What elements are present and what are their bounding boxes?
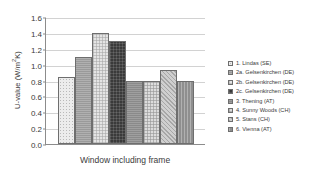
- bar: [143, 81, 160, 145]
- x-axis-label: Window including frame: [45, 155, 205, 165]
- bar: [160, 70, 177, 144]
- legend-item-label: 1. Lindas (SE): [236, 60, 271, 67]
- y-axis-tick-label: 1.6: [31, 14, 42, 23]
- legend-swatch-icon: [228, 117, 233, 122]
- legend-item-label: 2c. Gelsenkirchen (DE): [236, 88, 294, 95]
- legend-item[interactable]: 2b. Gelsenkirchen (DE): [228, 79, 316, 86]
- bar-chart: U-value (W/m2K) 1.61.41.21.00.80.60.40.2…: [0, 0, 318, 180]
- y-axis-tick-label: 1.4: [31, 29, 42, 38]
- y-axis-tick-label: 0.8: [31, 77, 42, 86]
- y-axis-tick: [43, 145, 46, 146]
- plot-area: 1.61.41.21.00.80.60.40.20.0: [45, 18, 205, 145]
- y-axis-title-superscript: 2: [11, 59, 17, 62]
- legend-swatch-icon: [228, 70, 233, 75]
- legend-item[interactable]: 3. Thening (AT): [228, 98, 316, 105]
- bar: [75, 57, 92, 144]
- bar: [177, 81, 194, 144]
- legend-item[interactable]: 5. Stans (CH): [228, 116, 316, 123]
- legend-item[interactable]: 1. Lindas (SE): [228, 60, 316, 67]
- legend-item[interactable]: 2c. Gelsenkirchen (DE): [228, 88, 316, 95]
- legend-swatch-icon: [228, 61, 233, 66]
- y-axis-tick-label: 0.4: [31, 109, 42, 118]
- bar: [109, 41, 126, 144]
- bar: [58, 77, 75, 144]
- legend-swatch-icon: [228, 80, 233, 85]
- legend-item-label: 5. Stans (CH): [236, 116, 270, 123]
- legend-item-label: 2a. Gelsenkirchen (DE): [236, 69, 294, 76]
- legend-swatch-icon: [228, 99, 233, 104]
- legend-item[interactable]: 2a. Gelsenkirchen (DE): [228, 69, 316, 76]
- bar-group: [46, 18, 205, 144]
- y-axis-tick-label: 0.0: [31, 141, 42, 150]
- y-axis-tick-label: 0.2: [31, 125, 42, 134]
- legend-item[interactable]: 6. Vienna (AT): [228, 126, 316, 133]
- y-axis-title: U-value (W/m2K): [8, 30, 20, 130]
- legend-item-label: 4. Sunny Woods (CH): [236, 107, 290, 114]
- legend-item-label: 2b. Gelsenkirchen (DE): [236, 79, 294, 86]
- legend: 1. Lindas (SE)2a. Gelsenkirchen (DE)2b. …: [228, 60, 316, 133]
- y-axis-tick-label: 0.6: [31, 93, 42, 102]
- legend-swatch-icon: [228, 89, 233, 94]
- bar: [92, 33, 109, 144]
- bar: [126, 81, 143, 144]
- y-axis-tick-label: 1.0: [31, 61, 42, 70]
- legend-item-label: 6. Vienna (AT): [236, 126, 272, 133]
- legend-swatch-icon: [228, 127, 233, 132]
- legend-item[interactable]: 4. Sunny Woods (CH): [228, 107, 316, 114]
- legend-item-label: 3. Thening (AT): [236, 98, 274, 105]
- legend-swatch-icon: [228, 108, 233, 113]
- y-axis-title-tail: K): [13, 51, 22, 59]
- y-axis-title-text: U-value (W/m: [13, 62, 22, 109]
- y-axis-tick-label: 1.2: [31, 45, 42, 54]
